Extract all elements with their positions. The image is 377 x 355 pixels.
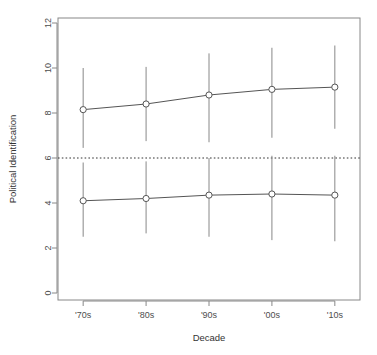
- y-tick-label: 12: [43, 18, 53, 28]
- y-tick-label: 6: [43, 155, 53, 160]
- data-series-group: [80, 46, 338, 242]
- y-tick-label: 0: [43, 290, 53, 295]
- data-point-marker: [332, 84, 338, 90]
- data-point-marker: [269, 86, 275, 92]
- y-axis-title: Political Identification: [7, 115, 18, 204]
- x-tick-label: '90s: [201, 310, 218, 320]
- x-tick-label: '00s: [264, 310, 281, 320]
- y-tick-label: 8: [43, 110, 53, 115]
- data-point-marker: [143, 195, 149, 201]
- series-upper: [80, 46, 338, 148]
- y-tick-label: 4: [43, 200, 53, 205]
- data-point-marker: [206, 192, 212, 198]
- x-axis: '70s'80s'90s'00s'10s: [75, 301, 343, 320]
- y-tick-label: 10: [43, 63, 53, 73]
- x-tick-label: '70s: [75, 310, 92, 320]
- data-point-marker: [80, 198, 86, 204]
- y-axis: 024681012: [43, 18, 57, 296]
- data-point-marker: [269, 191, 275, 197]
- series-lower: [80, 156, 338, 242]
- chart-container: 024681012 '70s'80s'90s'00s'10s Political…: [0, 0, 377, 355]
- x-axis-title: Decade: [193, 332, 226, 343]
- data-point-marker: [206, 92, 212, 98]
- y-tick-label: 2: [43, 245, 53, 250]
- data-point-marker: [80, 107, 86, 113]
- data-point-marker: [143, 101, 149, 107]
- x-tick-label: '80s: [138, 310, 155, 320]
- data-point-marker: [332, 192, 338, 198]
- x-tick-label: '10s: [327, 310, 344, 320]
- political-identification-chart: 024681012 '70s'80s'90s'00s'10s Political…: [0, 0, 377, 355]
